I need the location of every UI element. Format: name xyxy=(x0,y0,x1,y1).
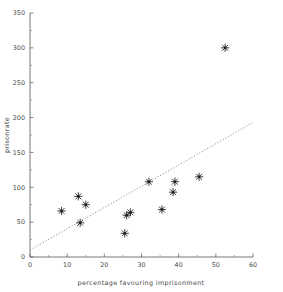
y-tick-label: 50 xyxy=(17,218,25,226)
x-tick-label: 20 xyxy=(100,261,108,269)
data-point-marker xyxy=(74,192,82,200)
data-point-marker xyxy=(158,205,166,213)
data-point-marker xyxy=(76,219,84,227)
data-points xyxy=(57,44,229,238)
data-point-marker xyxy=(57,207,65,215)
plot-canvas: 0102030405060050100150200250300350 perce… xyxy=(0,0,283,292)
regression-line xyxy=(30,122,253,250)
y-axis-title: prisonrate xyxy=(3,117,11,153)
y-tick-label: 100 xyxy=(13,184,25,192)
data-point-marker xyxy=(121,229,129,237)
x-tick-label: 40 xyxy=(175,261,183,269)
x-axis-title: percentage favouring imprisonment xyxy=(78,279,205,287)
data-point-marker xyxy=(221,44,229,52)
data-point-marker xyxy=(82,201,90,209)
y-tick-label: 200 xyxy=(13,114,25,122)
y-tick-label: 250 xyxy=(13,79,25,87)
x-tick-label: 10 xyxy=(63,261,71,269)
x-tick-label: 30 xyxy=(137,261,145,269)
y-tick-label: 150 xyxy=(13,149,25,157)
y-tick-label: 300 xyxy=(13,44,25,52)
data-point-marker xyxy=(171,178,179,186)
data-point-marker xyxy=(145,178,153,186)
x-tick-label: 0 xyxy=(28,261,32,269)
y-tick-label: 0 xyxy=(21,253,25,261)
data-point-marker xyxy=(169,188,177,196)
x-tick-label: 60 xyxy=(249,261,257,269)
y-tick-label: 350 xyxy=(13,9,25,17)
scatter-plot-figure: 0102030405060050100150200250300350 perce… xyxy=(0,0,283,292)
data-point-marker xyxy=(195,173,203,181)
data-point-marker xyxy=(126,208,134,216)
x-tick-label: 50 xyxy=(212,261,220,269)
axes: 0102030405060050100150200250300350 xyxy=(13,9,257,269)
